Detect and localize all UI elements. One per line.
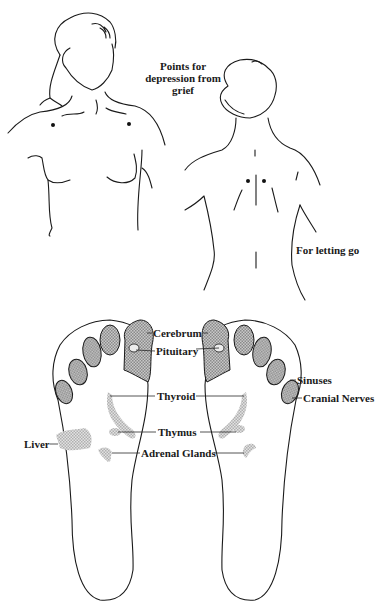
left-adrenal-zone <box>98 447 112 462</box>
grief-caption-line-2: depression from <box>138 72 228 84</box>
reflexology-diagram: Points for depression from grief For let… <box>0 0 382 605</box>
grief-caption-line-3: grief <box>138 84 228 96</box>
label-thymus: Thymus <box>158 426 197 438</box>
label-pituitary: Pituitary <box>156 345 198 357</box>
right-adrenal-zone <box>243 444 256 458</box>
left-toe-2 <box>100 325 120 355</box>
left-toe-5 <box>52 378 75 406</box>
label-sinuses: Sinuses <box>297 374 332 386</box>
left-foot <box>52 320 153 600</box>
grief-point-left <box>51 123 55 127</box>
right-foot <box>202 320 302 600</box>
grief-point-right <box>127 122 131 126</box>
left-pituitary-zone <box>129 344 139 352</box>
letting-go-point-right <box>262 179 266 183</box>
front-figure <box>8 13 165 236</box>
right-toe-2 <box>234 325 254 355</box>
grief-caption-line-1: Points for <box>138 60 228 72</box>
label-thyroid: Thyroid <box>157 390 195 402</box>
letting-go-caption: For letting go <box>296 244 359 256</box>
liver-zone <box>56 428 92 450</box>
label-liver: Liver <box>24 438 50 450</box>
label-cerebrum: Cerebrum <box>153 327 202 339</box>
label-adrenal-glands: Adrenal Glands <box>141 447 216 459</box>
letting-go-point-left <box>246 179 250 183</box>
label-cranial-nerves: Cranial Nerves <box>303 392 374 404</box>
grief-caption: Points for depression from grief <box>138 60 228 96</box>
